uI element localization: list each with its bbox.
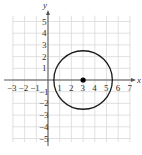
y-tick-label: 1	[42, 63, 47, 73]
y-axis-arrow-icon	[46, 10, 50, 15]
x-tick-label: 3	[81, 83, 86, 93]
y-tick-label: −5	[39, 134, 49, 144]
y-tick-label: 4	[42, 28, 47, 38]
x-tick-label: 7	[127, 83, 132, 93]
y-tick-label: 5	[42, 17, 47, 27]
coordinate-plane: xy−3−2−1123456754321−1−2−3−4−5	[0, 0, 142, 155]
y-tick-label: −4	[39, 122, 49, 132]
x-axis-arrow-icon	[131, 78, 136, 82]
x-tick-label: 4	[92, 83, 97, 93]
y-tick-label: −2	[39, 98, 49, 108]
x-tick-label: 1	[57, 83, 62, 93]
x-tick-label: −3	[7, 83, 17, 93]
center-point	[81, 77, 86, 82]
y-tick-label: 3	[42, 40, 47, 50]
x-tick-label: 2	[69, 83, 74, 93]
y-tick-label: −1	[39, 87, 49, 97]
x-tick-label: 5	[104, 83, 109, 93]
y-tick-label: −3	[39, 110, 49, 120]
x-tick-label: 6	[116, 83, 121, 93]
x-tick-label: −2	[19, 83, 29, 93]
y-axis-label: y	[42, 0, 47, 10]
x-axis-label: x	[136, 75, 141, 85]
y-tick-label: 2	[42, 52, 47, 62]
